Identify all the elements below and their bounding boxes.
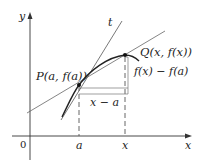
point-p-label: P(a, f(a)) [35, 69, 87, 83]
x-axis-arrow-icon [185, 134, 192, 139]
x-axis [12, 134, 192, 139]
y-axis [28, 12, 33, 160]
y-axis-arrow-icon [28, 12, 33, 19]
point-p [77, 83, 81, 87]
point-q [123, 53, 127, 57]
origin-label: 0 [20, 139, 26, 150]
tick-label-a: a [76, 139, 83, 152]
x-axis-label: x [185, 139, 192, 152]
secant-tangent-diagram: y 0 x a x P(a, f(a)) Q(x, f(x)) t x − a … [0, 0, 197, 165]
vertical-difference-label: f(x) − f(a) [133, 65, 188, 78]
tick-label-x: x [122, 139, 129, 152]
y-axis-label: y [18, 10, 26, 23]
horizontal-difference-bracket [79, 88, 128, 94]
point-q-label: Q(x, f(x)) [140, 45, 192, 59]
tangent-label: t [108, 16, 113, 29]
horizontal-difference-label: x − a [90, 96, 119, 109]
